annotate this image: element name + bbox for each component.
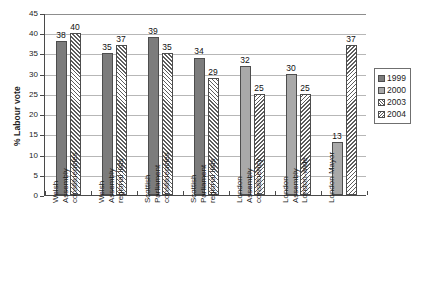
x-tick	[183, 191, 184, 195]
x-category-label: regional lists	[208, 159, 217, 203]
x-category-label: Parliament	[153, 165, 162, 203]
bar-value-label: 39	[143, 27, 164, 36]
y-tick-mark	[40, 135, 44, 136]
y-tick-label: 30	[20, 71, 38, 79]
legend-label-1999: 1999	[387, 74, 406, 83]
bar-value-label: 29	[203, 68, 224, 77]
y-tick-label: 10	[20, 152, 38, 160]
bar-value-label: 13	[327, 132, 348, 141]
x-category-label: Assembly	[245, 168, 254, 203]
legend-swatch-2000	[378, 87, 385, 94]
legend-item[interactable]: 1999	[378, 72, 406, 84]
x-tick	[137, 191, 138, 195]
bar-value-label: 25	[249, 84, 270, 93]
y-tick-mark	[40, 196, 44, 197]
y-tick-label: 25	[20, 91, 38, 99]
y-tick-mark	[40, 34, 44, 35]
x-category-label: London	[281, 176, 290, 203]
bar-value-label: 37	[111, 35, 132, 44]
x-category-label: Scottish	[143, 175, 152, 203]
x-category-label: Parliament	[199, 165, 208, 203]
legend-label-2003: 2003	[387, 98, 406, 107]
y-tick-label: 0	[20, 192, 38, 200]
x-category-label: London	[235, 176, 244, 203]
bar-value-label: 37	[341, 35, 362, 44]
legend-swatch-2004	[378, 111, 385, 118]
x-category-label: London Mayor	[327, 152, 336, 203]
bar-value-label: 35	[97, 43, 118, 52]
x-category-label: Assembly	[107, 168, 116, 203]
legend-item[interactable]: 2003	[378, 96, 406, 108]
x-category-label: constituency	[254, 159, 263, 203]
legend-item[interactable]: 2000	[378, 84, 406, 96]
x-tick	[229, 191, 230, 195]
x-category-label: Assembly	[291, 168, 300, 203]
x-tick	[321, 191, 322, 195]
legend-item[interactable]: 2004	[378, 108, 406, 120]
bar-value-label: 34	[189, 47, 210, 56]
x-category-label: Welsh	[97, 181, 106, 203]
y-tick-label: 35	[20, 50, 38, 58]
bar-value-label: 40	[65, 23, 86, 32]
bar[interactable]	[346, 45, 357, 195]
y-tick-label: 15	[20, 131, 38, 139]
x-tick	[275, 191, 276, 195]
x-category-label: Assembly	[61, 168, 70, 203]
x-category-label: regional lists	[116, 159, 125, 203]
x-tick	[91, 191, 92, 195]
legend-swatch-2003	[378, 99, 385, 106]
y-tick-mark	[40, 14, 44, 15]
x-category-label: constituencies	[70, 152, 79, 203]
figure-container: % Labour vote 38403537393534293225302513…	[0, 0, 429, 293]
bar-value-label: 38	[51, 31, 72, 40]
x-tick	[367, 191, 368, 195]
y-tick-label: 40	[20, 30, 38, 38]
y-tick-mark	[40, 75, 44, 76]
y-tick-mark	[40, 54, 44, 55]
y-tick-mark	[40, 176, 44, 177]
bar-value-label: 32	[235, 56, 256, 65]
legend-label-2000: 2000	[387, 86, 406, 95]
y-tick-mark	[40, 115, 44, 116]
bar-value-label: 25	[295, 84, 316, 93]
y-tick-mark	[40, 95, 44, 96]
y-tick-label: 5	[20, 172, 38, 180]
y-tick-mark	[40, 156, 44, 157]
y-tick-label: 20	[20, 111, 38, 119]
bar-value-label: 35	[157, 43, 178, 52]
x-category-label: constituencies	[162, 152, 171, 203]
bar-value-label: 30	[281, 64, 302, 73]
x-category-label: Scottish	[189, 175, 198, 203]
y-tick-label: 45	[20, 10, 38, 18]
legend-label-2004: 2004	[387, 110, 406, 119]
x-category-label: Welsh	[51, 181, 60, 203]
legend-swatch-1999	[378, 75, 385, 82]
x-tick	[45, 191, 46, 195]
x-category-label: London-wide	[300, 157, 309, 203]
legend: 1999 2000 2003 2004	[374, 68, 411, 124]
